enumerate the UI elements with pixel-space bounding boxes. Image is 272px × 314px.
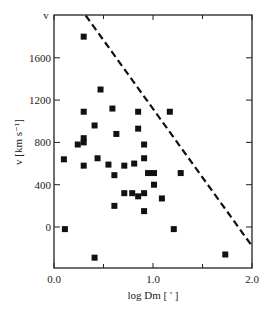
data-point [113,131,119,137]
data-point [135,193,141,199]
data-point [167,109,173,115]
dashed-boundary-line [86,16,252,247]
data-points [61,34,228,261]
y-tick-label: 400 [35,179,52,191]
x-axis-title: log Dm [ ' ] [128,289,179,301]
data-point [61,156,67,162]
data-point [105,162,111,168]
scatter-chart: 0.01.02.0 040080012001600 v log Dm [ ' ]… [0,0,272,314]
data-point [135,126,141,132]
data-point [141,208,147,214]
data-point [145,170,151,176]
data-point [131,161,137,167]
x-tick-label: 0.0 [47,273,61,285]
data-point [98,87,104,93]
data-point [109,106,115,112]
y-tick-label: 0 [46,221,52,233]
x-axis-ticks: 0.01.02.0 [47,15,259,285]
data-point [62,226,68,232]
x-tick-label: 1.0 [146,273,160,285]
data-point [121,163,127,169]
data-point [178,170,184,176]
x-tick-label: 2.0 [245,273,259,285]
data-point [81,109,87,115]
data-point [111,172,117,178]
data-point [171,226,177,232]
y-axis-title: v [km s⁻¹] [12,119,24,165]
y-axis-ticks: 040080012001600 [29,52,252,233]
data-point [81,135,87,141]
data-point [81,163,87,169]
y-axis-top-label: v [43,9,49,21]
data-point [159,195,165,201]
data-point [151,182,157,188]
y-tick-label: 800 [35,136,52,148]
data-point [151,170,157,176]
data-point [129,190,135,196]
data-point [92,122,98,128]
data-point [75,142,81,148]
data-point [92,255,98,261]
y-tick-label: 1600 [29,52,52,64]
y-tick-label: 1200 [29,94,52,106]
data-point [95,155,101,161]
data-point [111,203,117,209]
data-point [135,109,141,115]
data-point [141,155,147,161]
data-point [141,142,147,148]
data-point [141,190,147,196]
data-point [222,251,228,257]
data-point [121,190,127,196]
data-point [81,34,87,40]
